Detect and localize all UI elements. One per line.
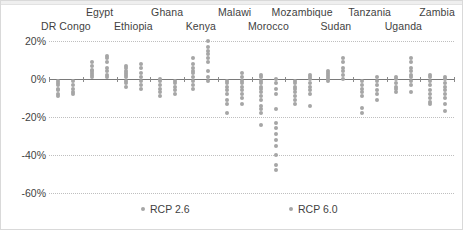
- x-axis-tick: [117, 77, 118, 82]
- x-axis-tick: [353, 77, 354, 82]
- data-point: [360, 111, 364, 115]
- y-axis-tick-label: -20%: [2, 111, 46, 123]
- data-point: [274, 168, 278, 172]
- data-point: [206, 69, 210, 73]
- legend-label-rcp-2-6: RCP 2.6: [150, 203, 190, 215]
- gridline: [49, 117, 454, 118]
- data-point: [375, 92, 379, 96]
- data-point: [274, 81, 278, 85]
- data-point: [139, 66, 143, 70]
- data-point: [191, 87, 195, 91]
- data-point: [225, 92, 229, 96]
- data-point: [56, 94, 60, 98]
- legend-label-rcp-6-0: RCP 6.0: [298, 203, 338, 215]
- y-axis-tick-labels: 20%0%-20%-40%-60%: [1, 1, 46, 230]
- plot-area: [49, 1, 454, 230]
- data-point: [341, 77, 345, 81]
- data-point: [71, 92, 75, 96]
- data-point: [360, 106, 364, 110]
- legend-dot-icon: [141, 207, 145, 211]
- gridline: [49, 155, 454, 156]
- data-point: [259, 123, 263, 127]
- data-point: [274, 163, 278, 167]
- data-point: [428, 102, 432, 106]
- data-point: [259, 111, 263, 115]
- data-point: [443, 96, 447, 100]
- data-point: [191, 56, 195, 60]
- data-point: [206, 79, 210, 83]
- data-point: [409, 83, 413, 87]
- data-point: [443, 109, 447, 113]
- x-axis-tick: [184, 77, 185, 82]
- data-point: [326, 79, 330, 83]
- data-point: [240, 102, 244, 106]
- data-point: [409, 90, 413, 94]
- x-axis-tick: [454, 77, 455, 82]
- data-point: [409, 60, 413, 64]
- data-point: [341, 60, 345, 64]
- legend-dot-icon: [289, 207, 293, 211]
- x-axis-tick: [218, 77, 219, 82]
- data-point: [274, 107, 278, 111]
- data-point: [139, 87, 143, 91]
- data-point: [240, 96, 244, 100]
- data-point: [274, 153, 278, 157]
- data-point: [173, 92, 177, 96]
- data-point: [225, 111, 229, 115]
- y-axis-tick-label: 0%: [2, 73, 46, 85]
- data-point: [105, 60, 109, 64]
- x-axis-tick: [319, 77, 320, 82]
- data-point: [274, 126, 278, 130]
- data-point: [308, 104, 312, 108]
- data-point: [274, 121, 278, 125]
- y-axis-tick-label: -40%: [2, 149, 46, 161]
- x-axis-tick: [387, 77, 388, 82]
- data-point: [308, 92, 312, 96]
- gridline: [49, 193, 454, 194]
- data-point: [394, 90, 398, 94]
- gridline: [49, 41, 454, 42]
- data-point: [443, 102, 447, 106]
- data-point: [259, 98, 263, 102]
- data-point: [105, 75, 109, 79]
- data-point: [428, 83, 432, 87]
- data-point: [206, 39, 210, 43]
- x-axis-tick: [420, 77, 421, 82]
- data-point: [293, 102, 297, 106]
- data-point: [274, 92, 278, 96]
- data-point: [274, 144, 278, 148]
- data-point: [90, 75, 94, 79]
- data-point: [360, 94, 364, 98]
- data-point: [124, 85, 128, 89]
- data-point: [274, 132, 278, 136]
- data-point: [158, 94, 162, 98]
- data-point: [206, 60, 210, 64]
- x-axis-tick: [150, 77, 151, 82]
- data-point: [274, 87, 278, 91]
- data-point: [375, 83, 379, 87]
- y-axis-tick-label: 20%: [2, 35, 46, 47]
- x-axis-tick: [252, 77, 253, 82]
- y-axis-tick-label: -60%: [2, 187, 46, 199]
- data-point: [225, 102, 229, 106]
- x-axis-tick: [49, 77, 50, 82]
- chart-legend: RCP 2.6 RCP 6.0: [1, 203, 463, 219]
- x-axis-tick: [285, 77, 286, 82]
- x-axis-tick: [83, 77, 84, 82]
- legend-item-rcp-6-0[interactable]: RCP 6.0: [289, 203, 338, 215]
- legend-item-rcp-2-6[interactable]: RCP 2.6: [141, 203, 190, 215]
- chart-container: DR CongoEgyptEthiopiaGhanaKenyaMalawiMor…: [0, 0, 463, 230]
- data-point: [375, 98, 379, 102]
- data-point: [274, 138, 278, 142]
